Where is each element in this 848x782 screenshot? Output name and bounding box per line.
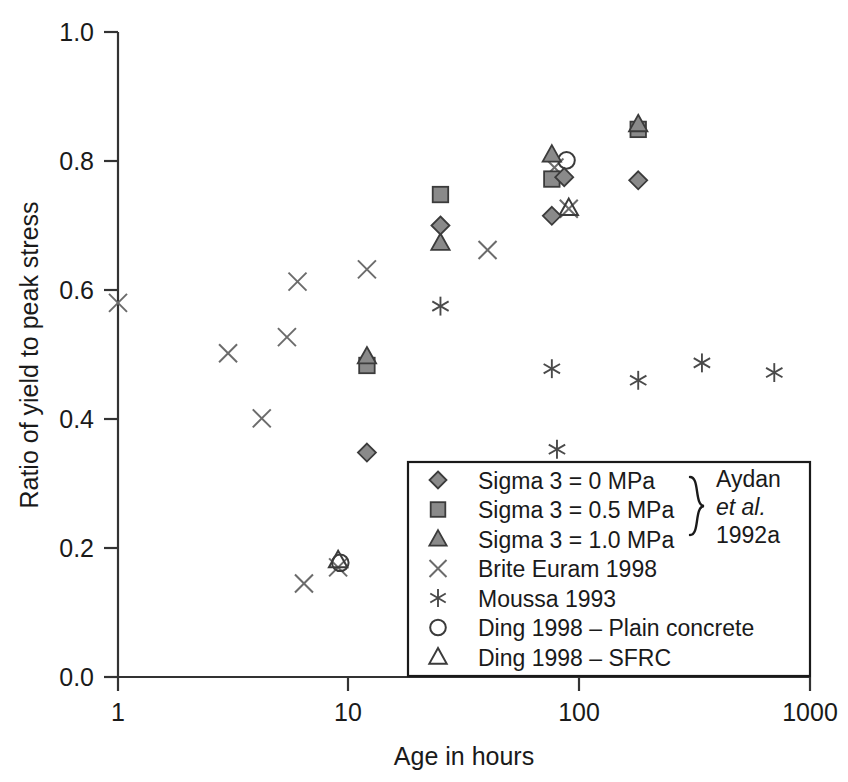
x-axis-label: Age in hours (394, 742, 534, 770)
marker-asterisk (694, 353, 710, 372)
plot-canvas: 0.0 0.2 0.4 0.6 0.8 1.0 1 10 100 1000 Ag… (0, 0, 848, 782)
legend-group-line3: 1992a (716, 522, 780, 548)
y-tick-label-2: 0.4 (59, 405, 94, 433)
series-points (358, 168, 647, 461)
legend-group-line2: et al. (716, 494, 766, 520)
marker-cross (253, 409, 271, 427)
legend-entry-label: Sigma 3 = 1.0 MPa (478, 527, 674, 553)
scatter-chart-figure: 0.0 0.2 0.4 0.6 0.8 1.0 1 10 100 1000 Ag… (0, 0, 848, 782)
y-tick-marks (104, 32, 118, 677)
marker-asterisk (630, 371, 646, 390)
marker-asterisk (432, 297, 448, 316)
legend-entry-label: Ding 1998 – SFRC (478, 645, 671, 671)
marker-square-filled (433, 187, 448, 202)
marker-cross (479, 241, 497, 259)
y-tick-label-4: 0.8 (59, 147, 94, 175)
y-tick-label-1: 0.2 (59, 534, 94, 562)
y-tick-label-5: 1.0 (59, 18, 94, 46)
x-tick-label-2: 100 (558, 698, 600, 726)
legend-entry-label: Sigma 3 = 0 MPa (478, 468, 655, 494)
series-points (359, 122, 646, 374)
y-tick-label-3: 0.6 (59, 276, 94, 304)
marker-diamond-filled (431, 217, 449, 235)
x-tick-label-0: 1 (111, 698, 125, 726)
x-tick-marks (118, 677, 810, 691)
legend-entry-label: Sigma 3 = 0.5 MPa (478, 497, 674, 523)
marker-diamond-filled (543, 207, 561, 225)
y-axis-label: Ratio of yield to peak stress (15, 201, 43, 508)
x-tick-label-1: 10 (334, 698, 362, 726)
marker-cross (288, 273, 306, 291)
marker-asterisk (766, 363, 782, 382)
marker-diamond-filled (358, 444, 376, 462)
marker-cross (278, 328, 296, 346)
legend-entry-label: Brite Euram 1998 (478, 556, 657, 582)
legend-entry-5[interactable]: Ding 1998 – Plain concrete (430, 615, 754, 641)
x-tick-label-3: 1000 (782, 698, 838, 726)
legend-entry-label: Moussa 1993 (478, 586, 616, 612)
marker-cross (358, 260, 376, 278)
series-points (432, 297, 782, 459)
series-points (358, 115, 648, 364)
legend-entry-label: Ding 1998 – Plain concrete (478, 615, 754, 641)
chart-legend[interactable]: Sigma 3 = 0 MPaSigma 3 = 0.5 MPaSigma 3 … (408, 462, 810, 676)
marker-triangle-filled (431, 233, 449, 249)
marker-triangle-filled (358, 347, 376, 363)
legend-group-line1: Aydan (716, 466, 781, 492)
x-tick-labels: 1 10 100 1000 (111, 698, 838, 726)
marker-asterisk (549, 440, 565, 459)
marker-asterisk (544, 359, 560, 378)
marker-diamond-filled (629, 171, 647, 189)
marker-cross (295, 574, 313, 592)
marker-triangle-filled (543, 145, 561, 161)
y-tick-labels: 0.0 0.2 0.4 0.6 0.8 1.0 (59, 18, 94, 691)
marker-square-filled (431, 502, 446, 517)
y-tick-label-0: 0.0 (59, 663, 94, 691)
marker-cross (219, 344, 237, 362)
